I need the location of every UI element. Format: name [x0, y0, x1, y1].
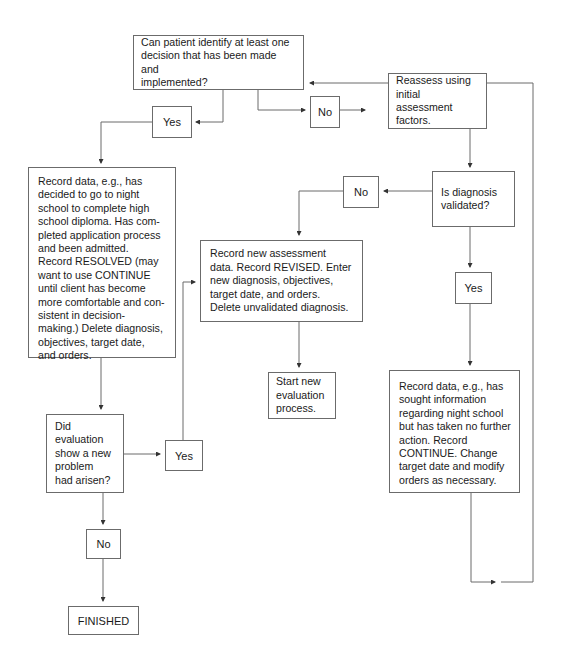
yes-label-1-text: Yes — [163, 116, 181, 128]
record-resolved-box: Record data, e.g., has decided to go to … — [28, 167, 176, 358]
new-problem-question: Did evaluation show a new problem had ar… — [46, 414, 124, 493]
edge-yes-record-resolved — [101, 122, 152, 163]
no-label-1-text: No — [318, 106, 332, 118]
record-continue-text: Record data, e.g., has sought informatio… — [399, 380, 511, 486]
finished-box: FINISHED — [68, 606, 139, 635]
no-label-2-text: No — [354, 186, 368, 198]
no-label-1: No — [310, 96, 340, 128]
no-label-2: No — [343, 176, 379, 208]
edge-no-record-revised — [299, 191, 343, 235]
reassess-box: Reassess using initial assessment factor… — [388, 73, 487, 129]
no-label-3: No — [86, 529, 121, 559]
no-label-3-text: No — [96, 538, 110, 550]
edge-q-decision-yes — [196, 89, 223, 122]
diagnosis-validated-text: Is diagnosis validated? — [441, 186, 497, 213]
yes-label-2-text: Yes — [465, 282, 483, 294]
diagnosis-validated-question: Is diagnosis validated? — [432, 171, 515, 227]
record-revised-box: Record new assessment data. Record REVIS… — [200, 240, 363, 322]
yes-label-1: Yes — [152, 106, 192, 138]
decision-identified-question: Can patient identify at least one decisi… — [133, 35, 304, 90]
edge-record-continue-loop — [471, 492, 495, 582]
new-problem-text: Did evaluation show a new problem had ar… — [55, 420, 111, 487]
finished-text: FINISHED — [78, 615, 129, 627]
reassess-text: Reassess using initial assessment factor… — [396, 74, 479, 128]
start-new-evaluation-box: Start new evaluation process. — [268, 372, 336, 419]
record-revised-text: Record new assessment data. Record REVIS… — [210, 247, 351, 314]
edge-yes-record-revised — [183, 282, 195, 440]
start-new-evaluation-text: Start new evaluation process. — [276, 375, 324, 415]
record-resolved-text: Record data, e.g., has decided to go to … — [38, 175, 165, 361]
yes-label-3: Yes — [165, 440, 203, 471]
decision-identified-text: Can patient identify at least one decisi… — [141, 36, 296, 90]
edge-loop-return — [310, 83, 533, 582]
yes-label-3-text: Yes — [175, 450, 193, 462]
record-continue-box: Record data, e.g., has sought informatio… — [389, 370, 520, 493]
yes-label-2: Yes — [455, 272, 492, 304]
edge-q-decision-no — [258, 89, 305, 110]
